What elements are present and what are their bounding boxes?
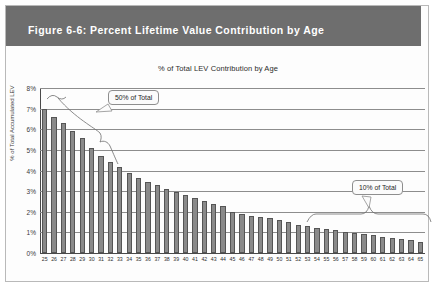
bar [98, 156, 103, 253]
x-tick-label: 38 [164, 256, 170, 262]
bar [70, 131, 75, 253]
bar [183, 195, 188, 253]
bar [136, 178, 141, 253]
bar [390, 238, 395, 253]
y-tick-label: 2% [2, 208, 36, 215]
y-axis-ticks: 0%1%2%3%4%5%6%7%8% [0, 88, 36, 253]
x-tick-label: 44 [220, 256, 226, 262]
x-tick-label: 57 [342, 256, 348, 262]
x-tick-label: 61 [380, 256, 386, 262]
x-tick-label: 58 [352, 256, 358, 262]
x-tick-label: 37 [154, 256, 160, 262]
bar [267, 218, 272, 253]
bar [371, 235, 376, 253]
bar [42, 109, 47, 253]
x-tick-label: 45 [230, 256, 236, 262]
bar [155, 185, 160, 253]
bar [80, 138, 85, 254]
bar [239, 214, 244, 253]
bar [192, 198, 197, 253]
x-tick-label: 41 [192, 256, 198, 262]
bar [286, 222, 291, 253]
x-tick-label: 32 [108, 256, 114, 262]
bar [305, 226, 310, 253]
bar [127, 173, 132, 253]
x-tick-label: 35 [136, 256, 142, 262]
bar [399, 239, 404, 253]
bar [296, 225, 301, 253]
bar [408, 240, 413, 253]
bar [230, 212, 235, 253]
x-tick-label: 60 [370, 256, 376, 262]
x-tick-label: 39 [173, 256, 179, 262]
bar [352, 233, 357, 253]
x-tick-label: 42 [201, 256, 207, 262]
x-tick-label: 29 [79, 256, 85, 262]
bar [51, 117, 56, 253]
x-axis-ticks: 2526272829303132333435363738394041424344… [40, 256, 425, 270]
x-tick-label: 64 [408, 256, 414, 262]
x-tick-label: 40 [183, 256, 189, 262]
x-tick-label: 48 [258, 256, 264, 262]
x-tick-label: 65 [417, 256, 423, 262]
bar [418, 242, 423, 253]
y-tick-label: 1% [2, 229, 36, 236]
bar [220, 206, 225, 253]
y-tick-label: 8% [2, 85, 36, 92]
annotation-10-percent: 10% of Total [352, 180, 403, 195]
bar [314, 228, 319, 253]
bar [164, 189, 169, 253]
plot-area [40, 88, 425, 253]
y-axis-title: % of Total Accumulated LEV [9, 68, 15, 178]
x-tick-label: 34 [126, 256, 132, 262]
bar [202, 201, 207, 253]
x-tick-label: 30 [89, 256, 95, 262]
bar [343, 232, 348, 253]
bar [145, 182, 150, 253]
annotation-50-percent: 50% of Total [108, 90, 159, 105]
x-tick-label: 54 [314, 256, 320, 262]
bar [361, 234, 366, 253]
x-tick-label: 63 [399, 256, 405, 262]
bar [277, 220, 282, 253]
x-tick-label: 52 [295, 256, 301, 262]
x-tick-label: 25 [42, 256, 48, 262]
bar [174, 192, 179, 253]
x-tick-label: 43 [211, 256, 217, 262]
y-tick-label: 6% [2, 126, 36, 133]
bar [249, 216, 254, 253]
y-tick-label: 5% [2, 146, 36, 153]
bar [61, 123, 66, 253]
x-tick-label: 55 [324, 256, 330, 262]
chart-title: % of Total LEV Contribution by Age [0, 64, 436, 73]
bar [258, 217, 263, 253]
bar [333, 230, 338, 253]
y-tick-label: 0% [2, 250, 36, 257]
bar [211, 204, 216, 254]
x-tick-label: 49 [267, 256, 273, 262]
bar [108, 162, 113, 253]
x-tick-label: 51 [286, 256, 292, 262]
x-tick-label: 33 [117, 256, 123, 262]
bar [117, 167, 122, 253]
figure-header-band: Figure 6-6: Percent Lifetime Value Contr… [6, 6, 421, 46]
y-tick-label: 4% [2, 167, 36, 174]
x-tick-label: 28 [70, 256, 76, 262]
figure-container: Figure 6-6: Percent Lifetime Value Contr… [0, 0, 436, 290]
x-tick-label: 27 [61, 256, 67, 262]
x-tick-label: 47 [248, 256, 254, 262]
gridline [40, 253, 425, 254]
x-tick-label: 56 [333, 256, 339, 262]
bar-series [40, 88, 425, 253]
bar [89, 148, 94, 253]
x-tick-label: 50 [277, 256, 283, 262]
x-tick-label: 36 [145, 256, 151, 262]
x-tick-label: 53 [305, 256, 311, 262]
bar [324, 229, 329, 253]
x-tick-label: 46 [239, 256, 245, 262]
x-tick-label: 62 [389, 256, 395, 262]
x-tick-label: 31 [98, 256, 104, 262]
y-tick-label: 3% [2, 188, 36, 195]
bar [380, 237, 385, 254]
x-tick-label: 59 [361, 256, 367, 262]
